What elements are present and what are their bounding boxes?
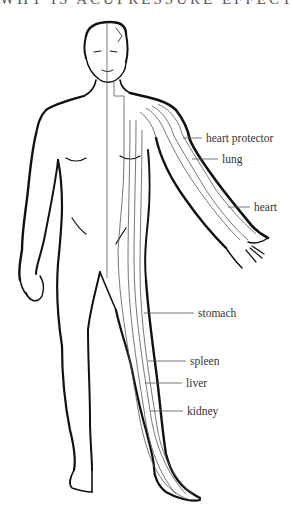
label-liver: liver	[186, 377, 207, 389]
label-heart-protector: heart protector	[206, 132, 273, 144]
label-heart: heart	[254, 201, 277, 213]
human-figure-illustration	[0, 0, 293, 512]
label-spleen: spleen	[190, 355, 219, 367]
label-lung: lung	[222, 153, 242, 165]
label-stomach: stomach	[198, 307, 236, 319]
label-kidney: kidney	[187, 405, 218, 417]
